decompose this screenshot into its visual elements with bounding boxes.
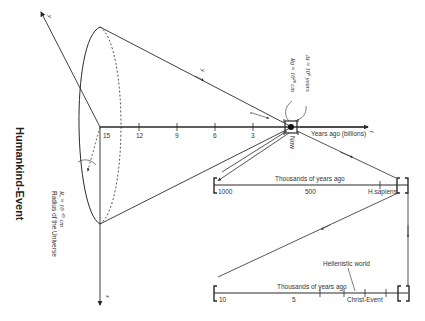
radius-caption: Radius of the Universe [51, 191, 58, 257]
cone-upper-generator [100, 27, 290, 126]
tick-label-15: 15 [103, 132, 111, 139]
timeline-2-tick-10: 10 [219, 296, 227, 303]
upper-generator-arrow [195, 76, 203, 80]
radius-dashed-line [88, 127, 100, 170]
y-axis [41, 12, 100, 127]
timeline-1-tick-500: 500 [305, 188, 316, 195]
tick-label-12: 12 [136, 132, 144, 139]
hellenistic-pointer [348, 268, 355, 291]
now-to-t1-right-arrow [340, 152, 352, 157]
cone-ellipse-back [100, 27, 121, 224]
diagram-title: Humankind-Event [14, 127, 26, 221]
timeline-2-tick-5: 5 [292, 296, 296, 303]
rg-annotation: Rɡ ≈ 10²⁸ cm [290, 57, 297, 92]
dt-annotation: Δt ≈ 10⁶ years [305, 54, 312, 92]
tick-label-6: 6 [213, 132, 217, 139]
t-axis-label: t [369, 131, 376, 133]
timeline-1-tick-1000: 1000 [218, 188, 233, 195]
cone-ellipse-front [79, 27, 100, 224]
tick-label-9: 9 [175, 132, 179, 139]
timeline-1-tick-hsapiens: H.sapiens [368, 188, 398, 196]
approach-dot [250, 112, 252, 114]
now-to-t1-left-2 [219, 133, 289, 180]
t1-to-t2-diagonal-arrow [322, 225, 330, 229]
cone-lower-generator [100, 128, 290, 224]
timeline-2-title: Thousands of years ago [277, 283, 347, 291]
x-axis-label: x [105, 294, 112, 298]
main-axis-label: Years ago (billions) [311, 130, 366, 138]
hellenistic-label: Hellenistic world [323, 260, 370, 267]
humankind-event-diagram: Humankind-Event y y x t R₀ ≈ 10⁻²⁹ cm Ra… [0, 0, 425, 321]
tick-label-3: 3 [251, 132, 255, 139]
rg-annotation-curve [286, 101, 292, 121]
timeline-1-title: Thousands of years ago [275, 175, 345, 183]
t1-to-t2-diagonal [218, 193, 398, 277]
dt-annotation-curve [295, 106, 306, 121]
generator-label: y [200, 68, 207, 72]
radius-formula: R₀ ≈ 10⁻²⁹ cm [59, 190, 66, 227]
timeline-2-tick-christ: Christ-Event [347, 296, 383, 303]
now-label: Now [289, 136, 296, 149]
y-axis-label: y [47, 14, 54, 18]
